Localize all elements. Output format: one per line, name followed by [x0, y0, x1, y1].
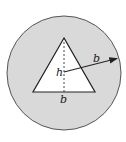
geometry-figure: h b b	[0, 0, 126, 142]
diagram-canvas: h b b	[0, 0, 126, 142]
base-label: b	[60, 93, 67, 106]
height-label: h	[56, 66, 63, 79]
radius-label: b	[93, 52, 100, 65]
